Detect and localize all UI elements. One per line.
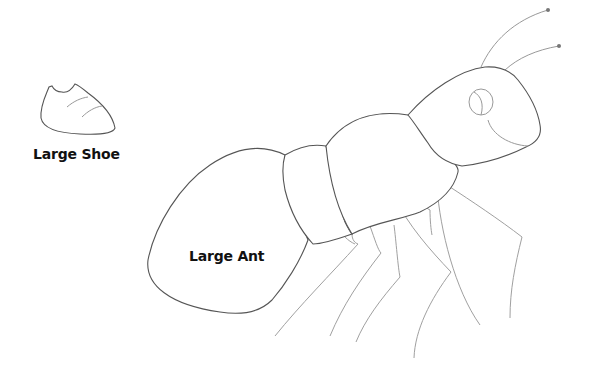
shoe-label: Large Shoe bbox=[33, 146, 120, 162]
leg-4 bbox=[395, 198, 451, 358]
antenna-left bbox=[481, 10, 548, 67]
ant-illustration[interactable] bbox=[148, 8, 561, 358]
shoe-outline bbox=[41, 84, 115, 134]
leg-5 bbox=[437, 187, 480, 325]
leg-3 bbox=[356, 225, 400, 342]
leg-6 bbox=[450, 187, 522, 318]
antenna-tip-right bbox=[557, 44, 561, 48]
antenna-tip-left bbox=[546, 8, 550, 12]
antenna-right bbox=[505, 46, 559, 70]
ant-label: Large Ant bbox=[189, 248, 264, 264]
shoe-illustration[interactable] bbox=[41, 84, 115, 134]
drawing-canvas bbox=[0, 0, 590, 367]
